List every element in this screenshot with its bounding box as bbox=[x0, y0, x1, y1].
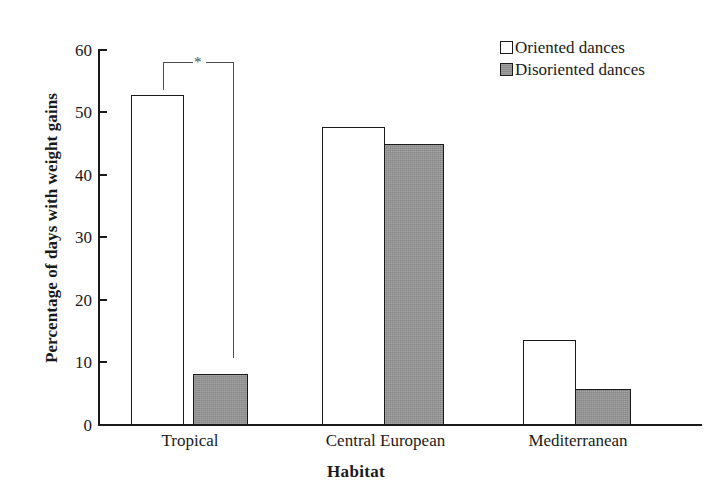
bar-tropical-oriented bbox=[131, 95, 184, 425]
y-tick-label-40: 40 bbox=[0, 167, 92, 184]
y-tick-label-50: 50 bbox=[0, 104, 92, 121]
y-tick-label-20: 20 bbox=[0, 292, 92, 309]
significance-bracket-right-arm bbox=[233, 62, 234, 358]
y-axis-line bbox=[98, 49, 100, 425]
x-tick-label-mediterranean: Mediterranean bbox=[503, 431, 653, 451]
y-tick-label-0: 0 bbox=[0, 417, 92, 434]
legend-swatch-open-square-icon bbox=[500, 41, 513, 54]
x-tick-label-tropical: Tropical bbox=[125, 431, 255, 451]
legend-label-oriented-dances: Oriented dances bbox=[515, 39, 625, 56]
bar-central-european-oriented bbox=[322, 127, 385, 425]
x-axis-title: Habitat bbox=[0, 462, 712, 482]
legend-item-disoriented-dances: Disoriented dances bbox=[500, 58, 645, 80]
x-tick-label-central-european: Central European bbox=[303, 431, 468, 451]
bar-mediterranean-disoriented bbox=[575, 389, 631, 425]
significance-star: * bbox=[194, 55, 202, 70]
bar-chart-figure: Percentage of days with weight gains 60 … bbox=[0, 0, 712, 496]
y-tick-label-60: 60 bbox=[0, 42, 92, 59]
legend-item-oriented-dances: Oriented dances bbox=[500, 36, 645, 58]
y-tick-label-30: 30 bbox=[0, 229, 92, 246]
legend-label-disoriented-dances: Disoriented dances bbox=[515, 61, 645, 78]
significance-bracket-top-right bbox=[206, 62, 234, 63]
bar-central-european-disoriented bbox=[384, 144, 444, 425]
bar-tropical-disoriented bbox=[193, 374, 248, 425]
bar-mediterranean-oriented bbox=[523, 340, 576, 425]
significance-bracket-left-arm bbox=[163, 62, 164, 90]
y-tick-label-10: 10 bbox=[0, 354, 92, 371]
significance-bracket-top-left bbox=[163, 62, 193, 63]
legend-swatch-filled-square-icon bbox=[500, 63, 513, 76]
legend: Oriented dances Disoriented dances bbox=[500, 36, 645, 80]
